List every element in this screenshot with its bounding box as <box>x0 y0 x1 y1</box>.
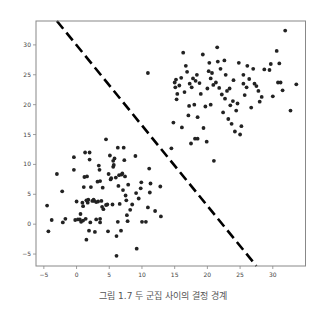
data-point <box>245 85 249 89</box>
data-point <box>214 81 218 85</box>
data-point <box>247 77 251 81</box>
data-point <box>212 159 216 163</box>
data-point <box>179 76 183 80</box>
data-point <box>102 207 106 211</box>
decision-boundary-line <box>57 21 257 266</box>
data-point <box>175 92 179 96</box>
data-point <box>88 151 92 155</box>
data-point <box>206 87 210 91</box>
data-point <box>128 208 132 212</box>
data-point <box>268 68 272 72</box>
data-point <box>60 189 64 193</box>
data-point <box>202 126 206 130</box>
data-point <box>120 172 124 176</box>
data-point <box>124 194 128 198</box>
data-point <box>137 197 141 201</box>
y-axis-ticks: −5051015202530 <box>22 41 36 257</box>
data-point <box>135 247 139 251</box>
data-point <box>159 215 163 219</box>
data-point <box>98 217 102 221</box>
data-point <box>126 183 130 187</box>
data-point <box>122 158 126 162</box>
data-point <box>115 254 119 258</box>
data-point <box>215 45 219 49</box>
scatter-points <box>45 29 298 258</box>
data-point <box>209 103 213 107</box>
data-point <box>105 203 109 207</box>
data-point <box>109 176 113 180</box>
data-point <box>118 202 122 206</box>
data-point <box>237 61 241 65</box>
x-tick-label: 5 <box>107 271 111 278</box>
data-point <box>134 154 138 158</box>
data-point <box>192 103 196 107</box>
data-point <box>204 105 208 109</box>
data-point <box>219 67 223 71</box>
data-point <box>170 146 174 150</box>
data-point <box>98 179 102 183</box>
data-point <box>119 229 123 233</box>
data-point <box>238 133 242 137</box>
data-point <box>123 175 127 179</box>
data-point <box>257 89 261 93</box>
data-point <box>97 164 101 168</box>
y-tick-label: 0 <box>27 220 31 227</box>
data-point <box>194 79 198 83</box>
data-point <box>187 114 191 118</box>
data-point <box>139 180 143 184</box>
data-point <box>223 59 227 63</box>
data-point <box>87 229 91 233</box>
data-point <box>72 168 76 172</box>
x-tick-label: 20 <box>204 271 212 278</box>
data-point <box>195 73 199 77</box>
data-point <box>210 71 214 75</box>
data-point <box>221 111 225 115</box>
data-point <box>201 53 205 57</box>
data-point <box>260 95 264 99</box>
data-point <box>61 221 65 225</box>
data-point <box>173 85 177 89</box>
data-point <box>98 168 102 172</box>
data-point <box>223 97 227 101</box>
data-point <box>83 151 87 155</box>
data-point <box>117 184 121 188</box>
data-point <box>240 124 244 128</box>
data-point <box>104 137 108 141</box>
data-point <box>175 97 179 101</box>
y-tick-label: 30 <box>23 41 31 48</box>
data-point <box>158 185 162 189</box>
data-point <box>85 175 89 179</box>
data-point <box>101 186 105 190</box>
data-point <box>130 203 134 207</box>
data-point <box>64 217 68 221</box>
data-point <box>94 218 98 222</box>
data-point <box>220 93 224 97</box>
data-point <box>262 68 266 72</box>
data-point <box>124 198 128 202</box>
y-tick-label: −5 <box>22 250 31 257</box>
data-point <box>189 142 193 146</box>
data-point <box>216 60 220 64</box>
data-point <box>205 140 209 144</box>
y-tick-label: 10 <box>23 160 31 167</box>
data-point <box>281 88 285 92</box>
data-point <box>242 82 246 86</box>
data-point <box>242 73 246 77</box>
data-point <box>187 104 191 108</box>
data-point <box>279 81 283 85</box>
data-point <box>82 185 86 189</box>
data-point <box>116 146 120 150</box>
data-point <box>188 82 192 86</box>
data-point <box>126 219 130 223</box>
data-point <box>111 159 115 163</box>
data-point <box>139 186 143 190</box>
x-axis-ticks: −5051015202530 <box>39 266 276 278</box>
data-point <box>96 200 100 204</box>
data-point <box>84 217 88 221</box>
plot-frame <box>36 21 306 266</box>
data-point <box>228 87 232 91</box>
data-point <box>275 49 279 53</box>
data-point <box>79 212 83 216</box>
scatter-chart: −5051015202530 −5051015202530 <box>0 0 326 318</box>
data-point <box>228 103 232 107</box>
